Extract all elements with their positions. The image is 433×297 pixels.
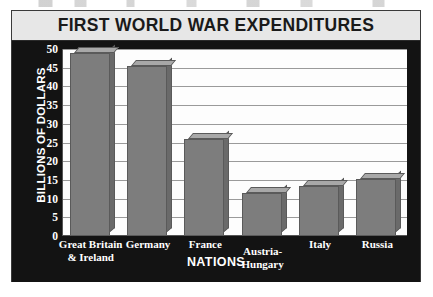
- bar-front-face: [299, 186, 339, 236]
- scan-artifact-top: [0, 0, 433, 7]
- title-banner: FIRST WORLD WAR EXPENDITURES: [12, 11, 420, 41]
- x-axis-title: NATIONS: [12, 255, 420, 269]
- bar-front-face: [184, 139, 224, 236]
- bar-top-face: [246, 187, 291, 193]
- bar-top-face: [188, 133, 233, 139]
- y-tick-label: 5: [36, 211, 58, 223]
- y-tick-label: 30: [36, 118, 58, 130]
- bar: [356, 179, 396, 236]
- y-tick-label: 45: [36, 62, 58, 74]
- chart-title: FIRST WORLD WAR EXPENDITURES: [58, 15, 375, 36]
- bar-top-face: [74, 47, 119, 53]
- x-axis-label: Russia: [343, 238, 412, 251]
- bar: [242, 193, 282, 236]
- bar: [184, 139, 224, 236]
- plot-area: [62, 49, 407, 236]
- bar: [299, 186, 339, 236]
- bar-top-face: [131, 60, 176, 66]
- y-tick-label: 50: [36, 43, 58, 55]
- bar-top-face: [360, 173, 405, 179]
- y-tick-label: 20: [36, 155, 58, 167]
- bar-side-face: [396, 171, 401, 232]
- bar-front-face: [242, 193, 282, 236]
- y-tick-label: 40: [36, 80, 58, 92]
- bar-side-face: [224, 131, 229, 232]
- bar: [127, 66, 167, 236]
- bar-front-face: [127, 66, 167, 236]
- y-axis-tick-labels: 50454035302520151050: [36, 49, 58, 236]
- bar-top-face: [303, 180, 348, 186]
- y-tick-label: 15: [36, 174, 58, 186]
- y-tick-label: 25: [36, 137, 58, 149]
- figure-frame: FIRST WORLD WAR EXPENDITURES BILLIONS OF…: [11, 10, 421, 282]
- bar-side-face: [110, 45, 115, 232]
- bar: [70, 53, 110, 236]
- y-tick-label: 35: [36, 99, 58, 111]
- bar-side-face: [167, 58, 172, 232]
- bar-front-face: [70, 53, 110, 236]
- bar-front-face: [356, 179, 396, 236]
- chart-screenshot: FIRST WORLD WAR EXPENDITURES BILLIONS OF…: [0, 0, 433, 297]
- y-tick-label: 10: [36, 193, 58, 205]
- chart-body: BILLIONS OF DOLLARS 50454035302520151050…: [12, 41, 420, 282]
- y-tick-label: 0: [36, 230, 58, 242]
